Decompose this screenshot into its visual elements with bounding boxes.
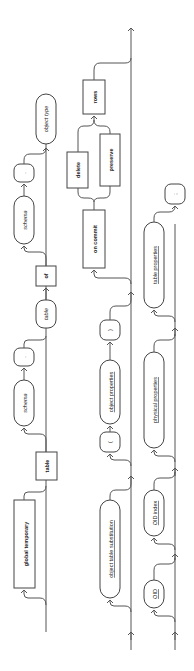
schema-label-2: schema — [22, 210, 28, 229]
row-2: object table substitution ( object prope… — [67, 28, 131, 650]
preserve-label: preserve — [108, 149, 114, 172]
oid-index-label: OID index — [152, 501, 158, 526]
rows-label: rows — [92, 91, 98, 104]
of-keyword-label: of — [43, 273, 49, 278]
oid-label: OID — [152, 589, 158, 599]
table-nonterminal-label: table — [43, 308, 49, 320]
physical-properties-label: physical properties — [152, 377, 158, 423]
on-commit-label: on commit — [92, 225, 98, 253]
object-type-label: object type — [43, 106, 49, 133]
global-temporary-label: global temporary — [23, 521, 29, 567]
row-3: OID OID index physical properties table … — [144, 184, 185, 650]
row-1: global temporary table schema . table of… — [14, 94, 57, 632]
table-keyword-label: table — [44, 460, 50, 473]
table-properties-label: table properties — [152, 246, 158, 284]
object-properties-label: object properties — [108, 371, 114, 412]
object-table-substitution-label: object table substitution — [108, 520, 114, 577]
syntax-diagram: global temporary table schema . table of… — [0, 0, 194, 671]
delete-label: delete — [75, 162, 81, 178]
schema-label-1: schema — [22, 393, 28, 412]
open-paren-label: ( — [107, 441, 113, 443]
close-paren-label: ) — [107, 329, 113, 331]
